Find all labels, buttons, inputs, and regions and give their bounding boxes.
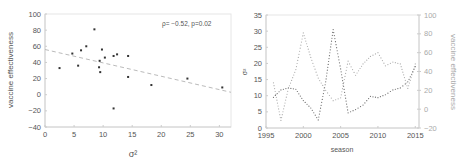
series-dot	[392, 89, 393, 90]
series-dot	[377, 97, 378, 98]
series-dot	[408, 85, 409, 86]
series-dot	[278, 91, 279, 92]
sigma-axis-label: σ²	[241, 68, 248, 75]
series-dot	[362, 63, 363, 64]
series-dot	[332, 35, 333, 36]
series-dot	[346, 67, 347, 68]
left-x-label: σ²	[129, 149, 138, 159]
series-dot	[318, 116, 319, 117]
series-dot	[320, 108, 321, 109]
series-dot	[342, 77, 343, 78]
left-y-label: vaccine effectiveness	[6, 32, 15, 108]
series-dot	[413, 69, 414, 70]
series-dot	[327, 67, 328, 68]
series-dot	[343, 82, 344, 83]
series-dot	[331, 38, 332, 39]
series-dot	[323, 93, 324, 94]
series-dot	[329, 55, 330, 56]
series-dot	[330, 43, 331, 44]
data-point	[80, 49, 82, 51]
series-dot	[407, 88, 408, 89]
y-right-tick-label: 80	[424, 29, 432, 38]
series-dot	[337, 53, 338, 54]
y-tick-label: 35	[254, 11, 262, 20]
series-dot	[341, 71, 342, 72]
series-dot	[304, 35, 305, 36]
series-dot	[296, 63, 297, 64]
data-point	[85, 45, 87, 47]
series-dot	[290, 88, 291, 89]
series-dot	[347, 64, 348, 65]
x-tick-label: 15	[128, 130, 136, 139]
data-point	[93, 28, 95, 30]
data-point	[116, 53, 118, 55]
x-tick-label: 30	[215, 130, 223, 139]
y-tick-label: 100	[28, 10, 41, 19]
series-dot	[321, 82, 322, 83]
series-dot	[325, 84, 326, 85]
series-dot	[280, 89, 281, 90]
ve-series	[273, 32, 416, 121]
series-dot	[341, 74, 342, 75]
series-dot	[330, 49, 331, 50]
x-tick-label: 0	[43, 130, 47, 139]
series-dot	[335, 41, 336, 42]
series-dot	[285, 88, 286, 89]
series-dot	[366, 100, 367, 101]
series-dot	[370, 56, 371, 57]
series-dot	[276, 100, 277, 101]
series-dot	[368, 58, 369, 59]
series-dot	[377, 52, 378, 53]
series-dot	[316, 72, 317, 73]
y-tick-label: 40	[33, 58, 41, 67]
series-dot	[308, 49, 309, 50]
data-point	[98, 66, 100, 68]
series-dot	[368, 98, 369, 99]
series-dot	[295, 89, 296, 90]
series-dot	[412, 72, 413, 73]
ve-axis-label: vaccine effectiveness	[449, 34, 458, 110]
series-dot	[311, 60, 312, 61]
series-dot	[411, 77, 412, 78]
series-dot	[334, 38, 335, 39]
y-tick-label: 20	[254, 59, 262, 68]
series-dot	[344, 92, 345, 93]
series-dot	[366, 60, 367, 61]
series-dot	[395, 89, 396, 90]
series-dot	[302, 35, 303, 36]
series-dot	[282, 114, 283, 115]
series-dot	[296, 66, 297, 67]
series-dot	[360, 106, 361, 107]
series-dot	[402, 72, 403, 73]
series-dot	[304, 38, 305, 39]
series-dot	[350, 111, 351, 112]
x-tick-label: 10	[99, 130, 107, 139]
series-dot	[319, 113, 320, 114]
series-dot	[333, 32, 334, 33]
season-label: season	[331, 146, 354, 153]
series-dot	[383, 63, 384, 64]
series-dot	[298, 54, 299, 55]
series-dot	[281, 117, 282, 118]
series-dot	[286, 94, 287, 95]
y-tick-label: −40	[28, 123, 41, 132]
series-dot	[333, 100, 334, 101]
x-tick-label: 2010	[370, 131, 387, 140]
timeseries-panel: 05101520253035 −20020406080100 199520002…	[241, 11, 458, 154]
x-tick-label: 25	[186, 130, 194, 139]
series-dot	[405, 80, 406, 81]
series-dot	[310, 107, 311, 108]
series-dot	[338, 98, 339, 99]
series-dot	[347, 61, 348, 62]
data-point	[113, 55, 115, 57]
series-dot	[273, 97, 274, 98]
series-dot	[331, 98, 332, 99]
series-dot	[372, 55, 373, 56]
series-dot	[328, 58, 329, 59]
series-dot	[277, 93, 278, 94]
series-dot	[297, 60, 298, 61]
series-dot	[403, 74, 404, 75]
series-dot	[359, 68, 360, 69]
series-dot	[336, 47, 337, 48]
series-dot	[308, 106, 309, 107]
